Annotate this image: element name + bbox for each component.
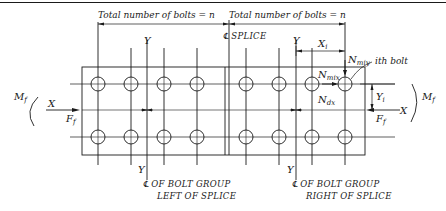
x-axis-label-left: X (48, 99, 55, 109)
y-axis-label-left-top: Y (144, 36, 151, 46)
right-group-centerline-label-2: RIGHT OF SPLICE (306, 192, 392, 201)
arrowhead (371, 84, 374, 90)
right-group-centerline-label: ℄ OF BOLT GROUP (292, 180, 380, 189)
y-axis-label-left-bottom: Y (138, 165, 145, 175)
xi-label: Xi (318, 39, 327, 51)
left-group-centerline-label: ℄ OF BOLT GROUP (143, 180, 231, 189)
splice-centerline-label: ℄ SPLICE (223, 32, 266, 41)
moment-left-label: Mf (14, 92, 27, 104)
y-axis-label-right-bottom: Y (287, 165, 294, 175)
arrowhead (339, 50, 345, 53)
n-mix-label: Nmix (318, 70, 340, 82)
arrowhead (229, 23, 235, 26)
moment-right-label: Mf (422, 92, 435, 104)
x-axis-label-right: X (400, 106, 407, 116)
y-axis-label-right-top: Y (293, 36, 300, 46)
moment-right-arc (411, 84, 417, 122)
left-dimension-label: Total number of bolts = n (98, 11, 215, 20)
arrowhead (147, 109, 152, 112)
force-right-label: Ff (376, 114, 386, 126)
left-group-centerline-label-2: LEFT OF SPLICE (157, 192, 236, 201)
arrowhead (98, 23, 104, 26)
arrowhead (223, 23, 229, 26)
right-dimension-label: Total number of bolts = n (229, 11, 346, 20)
n-dx-label: Ndx (318, 95, 335, 107)
arrowhead (366, 108, 374, 112)
yi-label: Yi (376, 92, 385, 104)
force-left-label: Ff (66, 114, 76, 126)
arrowhead (296, 50, 302, 53)
moment-left-arc (30, 97, 38, 126)
ith-bolt-label: ith bolt (375, 57, 408, 66)
arrowhead (142, 109, 147, 112)
arrowhead (291, 109, 296, 112)
arrowhead (339, 23, 345, 26)
arrowhead (72, 108, 80, 112)
arrowhead (343, 70, 347, 76)
centerline-symbol: ℄ (223, 31, 228, 41)
arrowhead (296, 109, 301, 112)
n-miy-label: Nmiy (348, 55, 370, 67)
arrowhead (332, 82, 338, 86)
